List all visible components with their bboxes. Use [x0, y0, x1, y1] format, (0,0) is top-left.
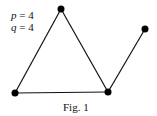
edge-bottom-right-upper-right — [108, 29, 145, 92]
vertex-bottom-left — [12, 90, 19, 97]
edges — [15, 9, 145, 93]
p-value: = 4 — [17, 9, 34, 21]
q-label: q = 4 — [11, 22, 34, 33]
figure-caption: Fig. 1 — [63, 102, 89, 113]
q-value: = 4 — [17, 21, 34, 33]
figure: p = 4 q = 4 Fig. 1 — [0, 0, 157, 116]
vertex-upper-right — [142, 26, 149, 33]
vertex-top — [58, 6, 65, 13]
p-label: p = 4 — [11, 10, 34, 21]
edge-top-bottom-right — [61, 9, 108, 92]
edge-bottom-left-bottom-right — [15, 92, 108, 93]
vertex-bottom-right — [105, 89, 112, 96]
